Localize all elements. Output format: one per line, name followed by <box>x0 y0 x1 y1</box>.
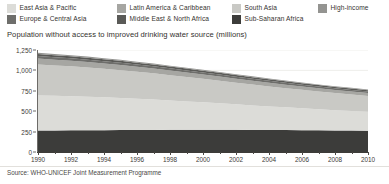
y-tick-mark <box>33 131 36 132</box>
x-tick-label: 1994 <box>97 156 111 163</box>
legend-swatch-icon <box>117 15 126 24</box>
x-tick-mark <box>55 152 56 154</box>
source-divider <box>0 166 389 167</box>
x-tick-label: 2000 <box>196 156 210 163</box>
x-tick-label: 2010 <box>361 156 375 163</box>
y-tick-label: 250 <box>21 128 32 135</box>
x-tick-mark <box>170 152 171 155</box>
legend-label: Middle East & North Africa <box>130 16 210 23</box>
x-tick-mark <box>368 152 369 155</box>
x-tick-mark <box>121 152 122 154</box>
x-tick-mark <box>154 152 155 154</box>
x-tick-label: 1996 <box>130 156 144 163</box>
stacked-area-svg <box>38 50 368 152</box>
x-tick-mark <box>253 152 254 154</box>
legend-swatch-icon <box>318 4 327 13</box>
legend-label: East Asia & Pacific <box>20 5 77 12</box>
x-tick-mark <box>71 152 72 155</box>
y-tick-mark <box>33 50 36 51</box>
y-tick-label: 0 <box>28 149 32 156</box>
x-tick-label: 2004 <box>262 156 276 163</box>
x-tick-mark <box>286 152 287 154</box>
legend-swatch-icon <box>232 4 241 13</box>
y-tick-label: 1,000 <box>16 67 32 74</box>
x-tick-label: 2002 <box>229 156 243 163</box>
x-tick-mark <box>236 152 237 155</box>
x-tick-mark <box>220 152 221 154</box>
source-note: Source: WHO-UNICEF Joint Measurement Pro… <box>7 169 161 176</box>
x-tick-label: 1990 <box>31 156 45 163</box>
legend-item[interactable]: Sub-Saharan Africa <box>232 15 303 24</box>
x-tick-mark <box>104 152 105 155</box>
y-tick-label: 500 <box>21 108 32 115</box>
legend-label: South Asia <box>245 5 278 12</box>
area-band <box>38 130 368 152</box>
legend-label: Latin America & Caribbean <box>130 5 211 12</box>
x-tick-mark <box>137 152 138 155</box>
legend-item[interactable]: South Asia <box>232 4 277 13</box>
x-tick-label: 2006 <box>295 156 309 163</box>
x-tick-mark <box>352 152 353 154</box>
x-tick-mark <box>302 152 303 155</box>
x-tick-label: 1998 <box>163 156 177 163</box>
legend-swatch-icon <box>117 4 126 13</box>
x-tick-mark <box>88 152 89 154</box>
legend-label: Sub-Saharan Africa <box>245 16 304 23</box>
legend-item[interactable]: East Asia & Pacific <box>7 4 76 13</box>
x-tick-mark <box>203 152 204 155</box>
legend-item[interactable]: Middle East & North Africa <box>117 15 209 24</box>
x-tick-label: 1992 <box>64 156 78 163</box>
chart-container: East Asia & PacificEurope & Central Asia… <box>0 0 389 184</box>
legend-swatch-icon <box>7 4 16 13</box>
y-tick-mark <box>33 152 36 153</box>
x-tick-mark <box>187 152 188 154</box>
y-tick-label: 750 <box>21 87 32 94</box>
x-tick-mark <box>335 152 336 155</box>
y-tick-mark <box>33 90 36 91</box>
x-tick-mark <box>269 152 270 155</box>
legend-item[interactable]: Latin America & Caribbean <box>117 4 210 13</box>
chart-title: Population without access to improved dr… <box>7 30 247 39</box>
legend-swatch-icon <box>7 15 16 24</box>
legend-item[interactable]: High-income <box>318 4 369 13</box>
legend-label: Europe & Central Asia <box>20 16 87 23</box>
legend-item[interactable]: Europe & Central Asia <box>7 15 86 24</box>
y-tick-mark <box>33 111 36 112</box>
chart-legend: East Asia & PacificEurope & Central Asia… <box>0 0 389 28</box>
y-tick-label: 1,250 <box>16 47 32 54</box>
legend-swatch-icon <box>232 15 241 24</box>
x-tick-mark <box>38 152 39 155</box>
legend-label: High-income <box>331 5 369 12</box>
y-tick-mark <box>33 70 36 71</box>
y-axis: 02505007501,0001,250 <box>0 50 36 152</box>
plot-area <box>38 50 368 152</box>
x-tick-mark <box>319 152 320 154</box>
x-tick-label: 2008 <box>328 156 342 163</box>
